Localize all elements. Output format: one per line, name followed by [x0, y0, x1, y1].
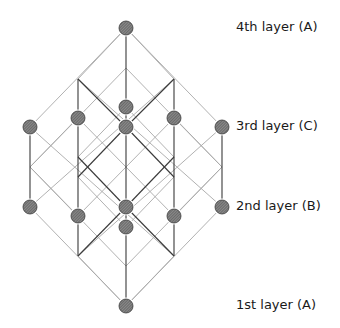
lattice-line [78, 256, 126, 306]
atom-2nd-layer [215, 200, 229, 214]
atom-2nd-layer [119, 220, 133, 234]
layer-label-3rd: 3rd layer (C) [236, 118, 318, 133]
atom-2nd-layer [167, 209, 181, 223]
atom-3rd-layer [119, 100, 133, 114]
atom-2nd-layer [71, 209, 85, 223]
dark-cube-edges [30, 28, 222, 306]
lattice-line [126, 256, 174, 306]
atom-3rd-layer [119, 120, 133, 134]
atom-3rd-layer [215, 120, 229, 134]
layer-label-1st: 1st layer (A) [236, 297, 316, 312]
cube-edge [78, 157, 126, 207]
atom-4th-layer [119, 21, 133, 35]
cube-edge [78, 127, 126, 177]
cube-edge [126, 127, 174, 177]
lattice-line [126, 28, 174, 79]
atom-3rd-layer [167, 111, 181, 125]
cube-edge [126, 157, 174, 207]
layer-label-4th: 4th layer (A) [236, 19, 318, 34]
atom-2nd-layer [23, 200, 37, 214]
stacking-lattice-diagram [0, 0, 340, 328]
atom-3rd-layer [23, 120, 37, 134]
atom-1st-layer [119, 299, 133, 313]
layer-label-2nd: 2nd layer (B) [236, 198, 321, 213]
lattice-line [78, 28, 126, 79]
atom-3rd-layer [71, 111, 85, 125]
atom-2nd-layer [119, 200, 133, 214]
